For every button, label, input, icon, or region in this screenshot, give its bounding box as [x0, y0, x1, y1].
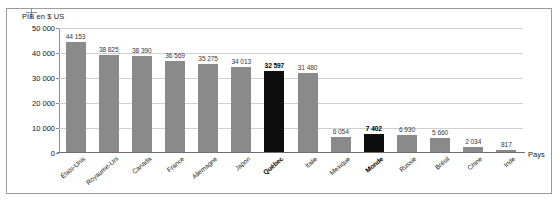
bar-slot: 6 054	[324, 28, 357, 152]
bar-value-label: 7 402	[366, 125, 382, 132]
bar[interactable]	[397, 135, 417, 152]
bar-value-label: 31 480	[298, 64, 318, 71]
bar-slot: 38 825	[92, 28, 125, 152]
bar[interactable]	[496, 150, 516, 152]
x-axis-title: Pays	[528, 150, 545, 159]
bar[interactable]	[364, 134, 384, 153]
chart-screenshot: PIB en $ US 010 00020 00030 00040 00050 …	[0, 0, 560, 201]
bar-slot: 32 597	[258, 28, 291, 152]
bar-slot: 35 275	[192, 28, 225, 152]
bar[interactable]	[331, 137, 351, 152]
bar[interactable]	[66, 42, 86, 152]
bar-slot: 44 153	[59, 28, 92, 152]
bar-slot: 5 660	[424, 28, 457, 152]
plot-area: 010 00020 00030 00040 00050 000 44 15338…	[59, 28, 523, 153]
bar-slot: 2 034	[457, 28, 490, 152]
bar-value-label: 2 034	[465, 138, 481, 145]
y-axis-tick-label: 50 000	[32, 24, 55, 33]
bar-value-label: 6 930	[399, 126, 415, 133]
bar-value-label: 44 153	[66, 33, 86, 40]
bar[interactable]	[132, 56, 152, 152]
bar[interactable]	[165, 61, 185, 152]
bar-slot: 34 013	[225, 28, 258, 152]
bar-value-label: 5 660	[432, 129, 448, 136]
bar-slot: 36 569	[158, 28, 191, 152]
bar-value-label: 38 390	[132, 47, 152, 54]
bar-slot: 817	[490, 28, 523, 152]
bar-value-label: 32 597	[265, 62, 285, 69]
bar-slot: 6 930	[390, 28, 423, 152]
y-axis-tick-label: 0	[51, 149, 55, 158]
x-axis-line	[57, 152, 525, 153]
y-axis-tick-label: 40 000	[32, 49, 55, 58]
bar-slot: 7 402	[357, 28, 390, 152]
bar-value-label: 34 013	[231, 58, 251, 65]
bar-series: 44 15338 82538 39036 56935 27534 01332 5…	[59, 28, 523, 152]
bar[interactable]	[463, 147, 483, 152]
bar-value-label: 38 825	[99, 46, 119, 53]
bar[interactable]	[264, 71, 284, 152]
bar[interactable]	[298, 73, 318, 152]
bar-value-label: 817	[501, 141, 512, 148]
y-axis-title: PIB en $ US	[22, 12, 64, 21]
bar[interactable]	[430, 138, 450, 152]
y-axis-tick-label: 20 000	[32, 99, 55, 108]
bar[interactable]	[231, 67, 251, 152]
bar-slot: 31 480	[291, 28, 324, 152]
bar-slot: 38 390	[125, 28, 158, 152]
bar-value-label: 6 054	[333, 128, 349, 135]
y-axis-tick-mark	[56, 153, 59, 154]
bar-value-label: 35 275	[198, 55, 218, 62]
bar[interactable]	[198, 64, 218, 152]
bar[interactable]	[99, 55, 119, 152]
y-axis-tick-label: 10 000	[32, 124, 55, 133]
bar-value-label: 36 569	[165, 52, 185, 59]
y-axis-tick-label: 30 000	[32, 74, 55, 83]
